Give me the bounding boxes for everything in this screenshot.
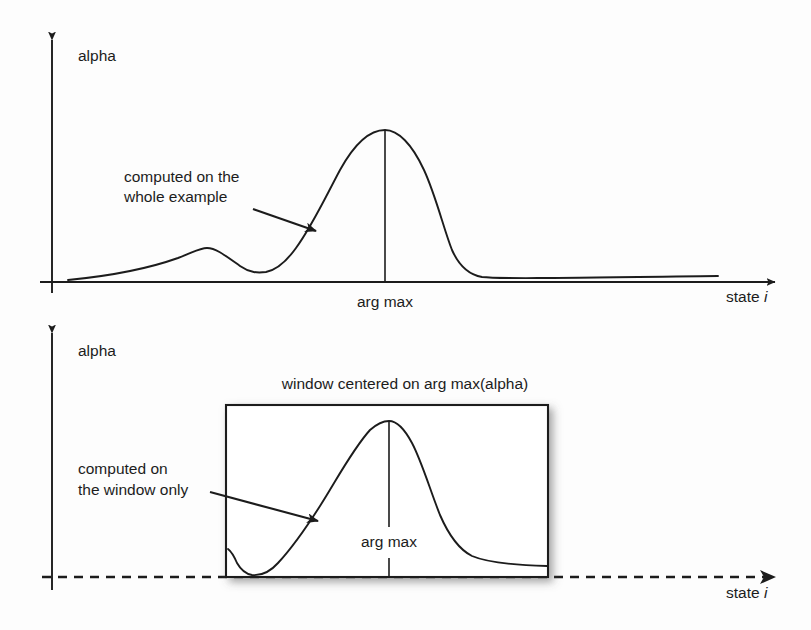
top-annotation-line1: computed on the — [124, 168, 239, 185]
bottom-x-axis-label-prefix: state — [726, 584, 764, 601]
top-argmax-label: arg max — [357, 293, 413, 310]
window-box-group — [226, 405, 548, 577]
bottom-y-axis-label: alpha — [78, 342, 116, 359]
bottom-annotation-line2: the window only — [78, 481, 189, 498]
window-box — [226, 405, 548, 577]
top-annotation-line2: whole example — [123, 188, 227, 205]
bottom-x-axis-label: state i — [726, 584, 768, 601]
bottom-argmax-label: arg max — [361, 533, 417, 550]
panel-bottom: alpha state i window centered on arg max… — [42, 333, 776, 601]
bottom-annotation-line1: computed on — [78, 460, 168, 477]
top-x-axis-label: state i — [726, 288, 768, 305]
bottom-x-axis-label-variable: i — [764, 584, 768, 601]
panel-top: alpha state i arg max computed on the wh… — [40, 40, 775, 310]
top-y-axis-label: alpha — [78, 47, 116, 64]
top-alpha-curve — [68, 130, 718, 280]
figure-container: alpha state i arg max computed on the wh… — [0, 0, 811, 630]
window-title-label: window centered on arg max(alpha) — [281, 375, 528, 392]
top-x-axis-label-prefix: state — [726, 288, 764, 305]
top-annotation-leader-arrow-icon — [253, 209, 316, 231]
figure-canvas: alpha state i arg max computed on the wh… — [0, 0, 811, 630]
top-x-axis-label-variable: i — [764, 288, 768, 305]
